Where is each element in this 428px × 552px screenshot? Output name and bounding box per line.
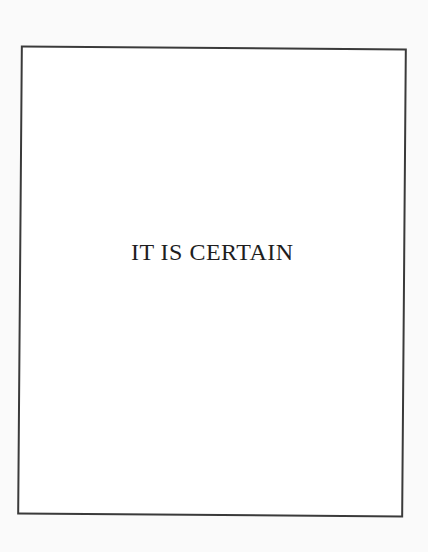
answer-card: IT IS CERTAIN	[17, 45, 407, 517]
answer-text: IT IS CERTAIN	[21, 239, 403, 266]
